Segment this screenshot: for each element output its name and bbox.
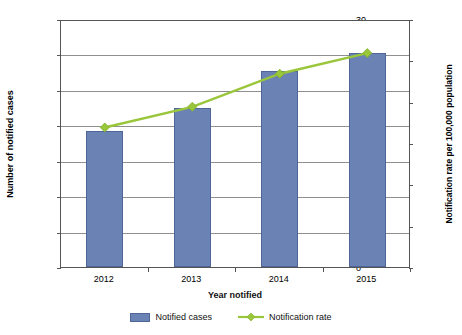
legend-label-notified-cases: Notified cases: [155, 312, 212, 322]
legend-item-notified-cases: Notified cases: [130, 312, 212, 322]
y-axis-left-title: Number of notified cases: [4, 20, 16, 268]
legend-label-notification-rate: Notification rate: [269, 312, 332, 322]
x-axis-tick-label: 2015: [336, 274, 396, 284]
x-axis-tick-mark: [323, 268, 324, 272]
line-marker-diamond: [363, 49, 372, 58]
legend-item-notification-rate: Notification rate: [238, 312, 332, 322]
x-axis-title: Year notified: [60, 290, 410, 300]
y-axis-right-title: Notification rate per 100,000 population: [443, 20, 455, 268]
y-axis-left-tick-mark: [57, 268, 61, 269]
plot-area: [60, 20, 410, 268]
line-marker-diamond: [100, 123, 109, 132]
x-axis-tick-label: 2013: [161, 274, 221, 284]
x-axis-tick-label: 2012: [74, 274, 134, 284]
bar-swatch-icon: [130, 313, 150, 322]
line-marker-diamond: [188, 102, 197, 111]
line-path: [105, 53, 368, 127]
chart-container: Number of notified cases Notification ra…: [0, 0, 462, 335]
line-marker-diamond: [275, 69, 284, 78]
line-diamond-swatch-icon: [238, 312, 264, 322]
chart-legend: Notified cases Notification rate: [0, 312, 462, 322]
x-axis-tick-label: 2014: [249, 274, 309, 284]
y-axis-right-tick-mark: [409, 268, 413, 269]
x-axis-tick-mark: [148, 268, 149, 272]
line-series: [61, 20, 411, 268]
x-axis-tick-mark: [235, 268, 236, 272]
